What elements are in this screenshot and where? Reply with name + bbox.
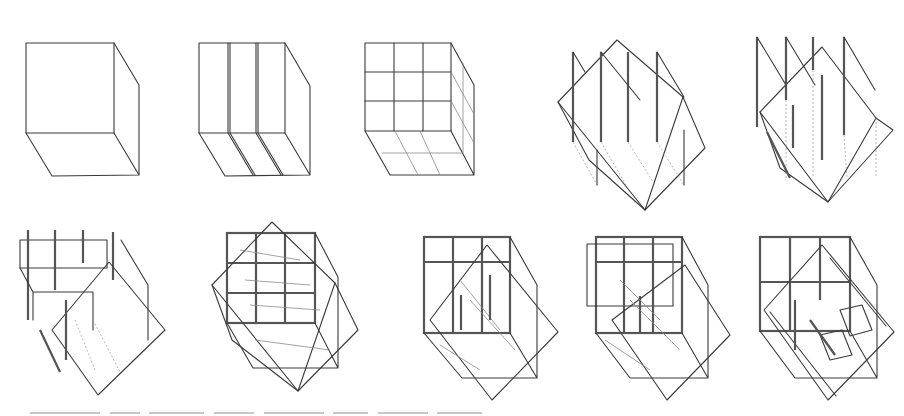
- panel-9-layered-frame: [587, 237, 730, 400]
- panel-7-grid-rotated: [212, 222, 358, 391]
- panel-8-frame-diagonal: [424, 237, 558, 400]
- panel-5-planes-walls: [757, 37, 893, 202]
- drawings-canvas: [0, 0, 904, 416]
- panel-6-frame-plane: [20, 230, 165, 395]
- figure-caption-cutoff: [30, 409, 904, 416]
- caption-fragment: [437, 412, 482, 414]
- caption-fragment: [333, 412, 368, 414]
- panel-4-rotated-plane: [558, 40, 705, 210]
- figure-sheet: [0, 0, 904, 416]
- caption-fragment: [264, 412, 324, 414]
- caption-fragment: [149, 412, 204, 414]
- panel-3-grid-cube: [365, 43, 474, 175]
- caption-fragment: [214, 412, 254, 414]
- panel-1-cube: [26, 43, 139, 176]
- caption-fragment: [378, 412, 428, 414]
- panel-2-slabs: [199, 43, 310, 176]
- caption-fragment: [30, 412, 100, 414]
- panel-10-final: [760, 237, 894, 400]
- caption-fragment: [110, 412, 140, 414]
